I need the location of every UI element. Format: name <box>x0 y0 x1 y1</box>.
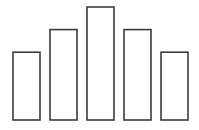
bars-group <box>13 7 188 120</box>
bar-5 <box>161 52 188 120</box>
bar-2 <box>50 30 77 120</box>
bar-chart <box>0 0 199 130</box>
bar-4 <box>124 30 151 120</box>
bar-1 <box>13 52 40 120</box>
bar-3 <box>87 7 114 120</box>
